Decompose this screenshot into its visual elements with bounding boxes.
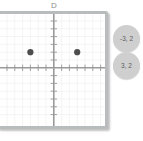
coordinate-badge-2-label: 3, 2 (121, 62, 132, 69)
data-point-right[interactable] (74, 49, 80, 55)
coordinate-plane-svg (0, 14, 105, 126)
graph-panel (0, 11, 108, 129)
page-title: D (0, 1, 108, 11)
coordinate-badge-1-label: -3, 2 (120, 35, 133, 42)
coordinate-plane[interactable] (0, 14, 105, 126)
data-point-left[interactable] (27, 49, 33, 55)
coordinate-badge-2[interactable]: 3, 2 (113, 52, 140, 79)
coordinate-badge-1[interactable]: -3, 2 (113, 25, 140, 52)
